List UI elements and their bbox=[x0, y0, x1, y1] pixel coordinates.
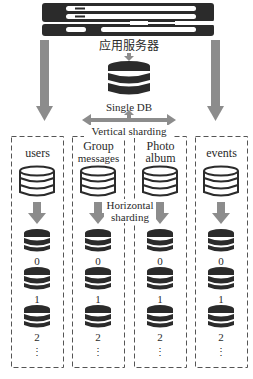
shard-index: 2 bbox=[147, 332, 173, 343]
server-rack-icon bbox=[42, 3, 215, 36]
vertical-sharding-label: Vertical sharding bbox=[84, 125, 174, 138]
diagram-canvas bbox=[0, 0, 253, 379]
more-shards-ellipsis: ⋮ bbox=[147, 350, 173, 354]
right-down-arrow-icon bbox=[207, 40, 224, 121]
shard-db-icon bbox=[208, 267, 234, 290]
shard-db-icon bbox=[85, 267, 111, 290]
shard-index: 1 bbox=[24, 294, 50, 305]
single-db-icon bbox=[108, 61, 150, 95]
server-label: 应用服务器 bbox=[99, 40, 159, 53]
shard-index: 1 bbox=[208, 294, 234, 305]
photo-album-db-icon bbox=[143, 167, 177, 196]
users-shard-arrow-icon bbox=[28, 202, 46, 224]
shard-index: 0 bbox=[208, 256, 234, 267]
more-shards-ellipsis: ⋮ bbox=[85, 350, 111, 354]
more-shards-ellipsis: ⋮ bbox=[208, 350, 234, 354]
shard-index: 2 bbox=[85, 332, 111, 343]
column-title-group-line2: messages bbox=[73, 152, 124, 165]
shard-index: 1 bbox=[147, 294, 173, 305]
events-shard-arrow-icon bbox=[212, 202, 230, 224]
events-db-icon bbox=[204, 167, 238, 196]
left-down-arrow-icon bbox=[36, 40, 53, 121]
shard-index: 2 bbox=[208, 332, 234, 343]
shard-db-icon bbox=[24, 267, 50, 290]
shard-db-icon bbox=[24, 229, 50, 252]
single-db-label: Single DB bbox=[99, 101, 159, 114]
column-title-photo-line2: album bbox=[135, 152, 186, 165]
column-title-events: events bbox=[196, 147, 247, 160]
shard-index: 0 bbox=[147, 256, 173, 267]
column-title-users: users bbox=[12, 147, 63, 160]
shard-index: 0 bbox=[24, 256, 50, 267]
horizontal-sharding-label-line1: Horizontal bbox=[104, 199, 156, 211]
shard-db-icon bbox=[24, 305, 50, 328]
shard-db-icon bbox=[208, 229, 234, 252]
shard-db-icon bbox=[147, 267, 173, 290]
group-messages-db-icon bbox=[81, 167, 115, 196]
shard-db-icon bbox=[147, 305, 173, 328]
shard-db-icon bbox=[208, 305, 234, 328]
shard-index: 0 bbox=[85, 256, 111, 267]
more-shards-ellipsis: ⋮ bbox=[24, 350, 50, 354]
shard-index: 2 bbox=[24, 332, 50, 343]
users-db-icon bbox=[20, 167, 54, 196]
shard-index: 1 bbox=[85, 294, 111, 305]
horizontal-sharding-label-line2: sharding bbox=[104, 211, 156, 223]
shard-db-icon bbox=[85, 305, 111, 328]
server-to-db-arrow-icon bbox=[124, 53, 134, 61]
shard-db-icon bbox=[85, 229, 111, 252]
shard-db-icon bbox=[147, 229, 173, 252]
